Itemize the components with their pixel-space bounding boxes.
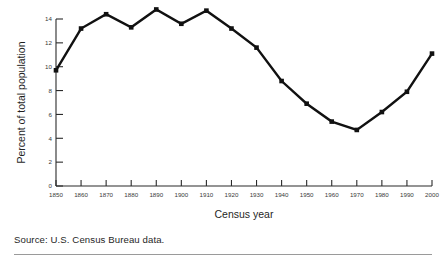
x-tick-label: 1850 (49, 191, 63, 198)
data-point-marker (104, 12, 109, 17)
x-tick-label: 1940 (275, 191, 289, 198)
x-tick-label: 2000 (425, 191, 439, 198)
chart-figure: 02468101214 1850186018701880189019001910… (0, 0, 446, 263)
y-tick-label: 14 (45, 15, 52, 22)
x-tick-group: 1850186018701880189019001910192019301940… (49, 180, 439, 198)
data-point-marker (279, 79, 284, 84)
y-tick-label: 0 (49, 182, 53, 189)
x-tick-label: 1920 (225, 191, 239, 198)
data-point-marker (229, 26, 234, 31)
data-point-marker (329, 119, 334, 124)
y-tick-label: 6 (49, 111, 53, 118)
data-point-marker (154, 7, 159, 12)
x-tick-label: 1900 (174, 191, 188, 198)
data-point-marker (380, 110, 385, 115)
x-tick-label: 1960 (325, 191, 339, 198)
x-tick-label: 1970 (350, 191, 364, 198)
data-point-marker (405, 89, 410, 94)
data-point-marker (304, 101, 309, 106)
x-axis-title: Census year (215, 208, 274, 220)
data-point-marker (204, 8, 209, 13)
data-series-group (54, 7, 435, 132)
y-tick-group: 02468101214 (45, 15, 63, 189)
x-tick-label: 1930 (250, 191, 264, 198)
bottom-divider (14, 254, 432, 255)
data-point-marker (129, 25, 134, 30)
data-point-marker (430, 51, 435, 56)
y-tick-label: 12 (45, 39, 52, 46)
y-tick-label: 4 (49, 135, 53, 142)
y-tick-label: 2 (49, 158, 53, 165)
x-tick-label: 1860 (74, 191, 88, 198)
line-chart-svg: 02468101214 1850186018701880189019001910… (0, 0, 446, 228)
y-axis-title: Percent of total population (15, 41, 27, 163)
data-line (56, 9, 432, 129)
x-tick-label: 1950 (300, 191, 314, 198)
y-tick-label: 8 (49, 87, 53, 94)
source-note: Source: U.S. Census Bureau data. (14, 234, 164, 245)
data-point-marker (179, 21, 184, 26)
data-point-marker (355, 128, 360, 133)
plot-area: 02468101214 1850186018701880189019001910… (0, 0, 446, 228)
x-tick-label: 1890 (149, 191, 163, 198)
y-tick-label: 10 (45, 63, 52, 70)
x-tick-label: 1990 (400, 191, 414, 198)
x-tick-label: 1980 (375, 191, 389, 198)
data-point-marker (79, 26, 84, 31)
data-point-marker (54, 68, 59, 73)
x-tick-label: 1870 (99, 191, 113, 198)
data-point-marker (254, 45, 259, 50)
x-tick-label: 1880 (124, 191, 138, 198)
x-tick-label: 1910 (200, 191, 214, 198)
